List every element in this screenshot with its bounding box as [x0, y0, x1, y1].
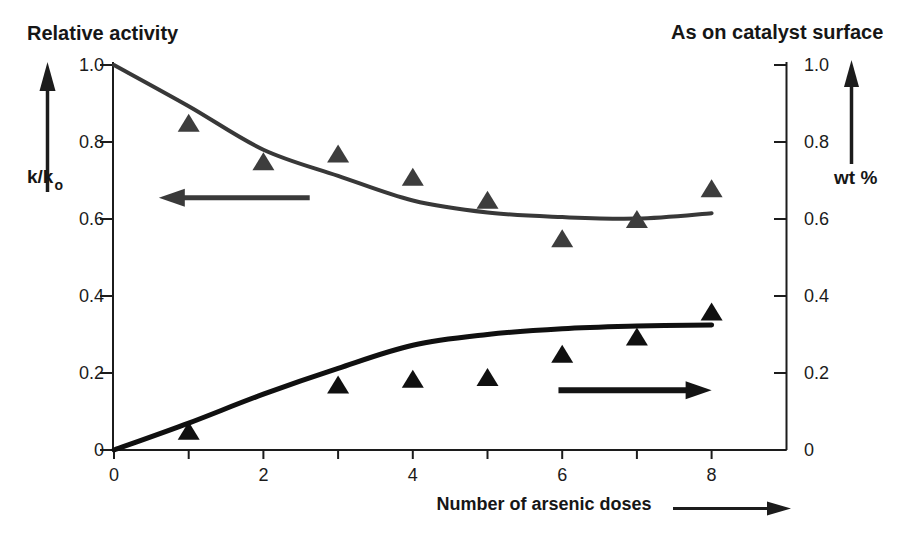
left-axis-unit-label: k/ko [27, 166, 62, 191]
left-axis-title: Relative activity [27, 22, 178, 45]
arsenic-on-surface-data-points-marker [477, 368, 499, 386]
x-axis-tick-label: 8 [696, 465, 728, 485]
x-axis-tick-label: 6 [546, 465, 578, 485]
relative-activity-data-points-marker [327, 145, 349, 163]
x-axis-tick-label: 0 [98, 465, 130, 485]
left-axis-tick-label: 0.4 [56, 286, 104, 306]
x-axis-label-right-arrow-icon [672, 498, 792, 518]
relative-activity-data-points-marker [402, 168, 424, 186]
x-axis-tick-label: 4 [397, 465, 429, 485]
right-axis [774, 62, 787, 450]
right-axis-up-arrow-icon [840, 58, 862, 166]
right-axis-tick-label: 0 [804, 440, 814, 460]
x-axis-tick-label: 2 [247, 465, 279, 485]
relative-activity-data-points-marker [178, 114, 200, 132]
plot-canvas [0, 0, 901, 543]
left-axis-tick-label: 0.2 [56, 363, 104, 383]
relative-activity-data-points-marker [551, 229, 573, 247]
right-axis-title: As on catalyst surface [671, 21, 883, 44]
left-axis-unit-subscript: o [54, 177, 63, 193]
x-axis-label: Number of arsenic doses [394, 494, 694, 515]
right-axis-tick-label: 1.0 [804, 55, 829, 75]
points-to-right-axis-arrow [558, 381, 711, 399]
arsenic-on-surface-data-points-marker [626, 327, 648, 345]
figure-arsenic-poisoning-chart: Relative activity As on catalyst surface… [0, 0, 901, 543]
right-axis-tick-label: 0.8 [804, 132, 829, 152]
arsenic-on-surface-data-points-marker [402, 370, 424, 388]
left-axis-tick-label: 0 [56, 440, 104, 460]
x-axis [113, 450, 787, 459]
left-axis-tick-label: 1.0 [56, 55, 104, 75]
left-axis-tick-label: 0.6 [56, 209, 104, 229]
arsenic-on-surface-data-points-marker [551, 345, 573, 363]
left-axis [100, 62, 113, 450]
points-to-left-axis-arrow [159, 189, 310, 207]
arsenic-on-surface-data-points-marker [701, 302, 723, 320]
relative-activity-data-points-marker [477, 191, 499, 209]
right-axis-tick-label: 0.6 [804, 209, 829, 229]
right-axis-unit-label: wt % [834, 167, 877, 189]
right-axis-tick-label: 0.4 [804, 286, 829, 306]
left-axis-tick-label: 0.8 [56, 132, 104, 152]
arsenic-on-surface-data-points-marker [327, 376, 349, 394]
relative-activity-data-points-marker [701, 179, 723, 197]
right-axis-tick-label: 0.2 [804, 363, 829, 383]
left-axis-unit-main: k/k [27, 166, 53, 187]
